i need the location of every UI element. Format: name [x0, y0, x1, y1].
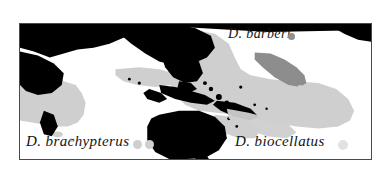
legend-dot-barberi: [288, 33, 295, 40]
species-label-brachypterus: D. brachypterus: [26, 133, 130, 150]
distribution-map-figure: D. barberi D. brachypterus D. biocellatu…: [0, 0, 392, 174]
species-label-biocellatus: D. biocellatus: [235, 133, 325, 150]
legend-dot-biocellatus-1: [338, 140, 348, 150]
species-label-barberi: D. barberi: [228, 26, 291, 42]
legend-dot-brachypterus-2: [145, 140, 154, 149]
legend-dot-brachypterus-1: [133, 140, 142, 149]
